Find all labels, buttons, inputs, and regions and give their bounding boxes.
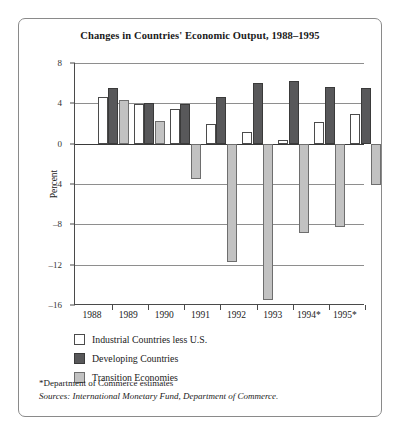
bar (242, 132, 252, 144)
legend-item: Industrial Countries less U.S. (74, 330, 334, 349)
bar (361, 88, 371, 143)
y-tick-mark (70, 143, 75, 144)
bar-group (202, 63, 238, 305)
plot-area (74, 63, 364, 305)
page-title: Changes in Countries' Economic Output, 1… (19, 30, 381, 41)
legend-swatch (74, 353, 85, 364)
bar (278, 140, 288, 144)
bar (289, 81, 299, 144)
y-tick-mark (70, 63, 75, 64)
bar (144, 103, 154, 143)
y-tick-label: –4 (32, 179, 62, 189)
bar (155, 121, 165, 143)
plot-wrapper: Percent 840–4–8–12–16 198819891990199119… (56, 63, 364, 305)
bar (371, 144, 381, 185)
bar (253, 83, 263, 144)
bar-group (130, 63, 166, 305)
bar-group (311, 63, 347, 305)
bar (227, 144, 237, 262)
legend-label: Developing Countries (92, 353, 178, 364)
bar (191, 144, 201, 179)
y-tick-mark (70, 224, 75, 225)
y-tick-mark (70, 305, 75, 306)
bar-group (347, 63, 383, 305)
y-tick-mark (70, 184, 75, 185)
y-tick-label: –8 (32, 219, 62, 229)
y-tick-label: –16 (32, 300, 62, 310)
bar (108, 88, 118, 143)
y-tick-mark (70, 103, 75, 104)
bar (180, 104, 190, 143)
x-tick-label: 1995* (321, 310, 369, 320)
bar (299, 144, 309, 234)
legend-swatch (74, 334, 85, 345)
bar-group (239, 63, 275, 305)
bar (314, 122, 324, 143)
bar (206, 124, 216, 144)
legend-label: Industrial Countries less U.S. (92, 334, 207, 345)
bar (134, 104, 144, 143)
bar (335, 144, 345, 228)
bar (325, 87, 335, 143)
legend-item: Developing Countries (74, 349, 334, 368)
y-tick-mark (70, 264, 75, 265)
y-tick-label: 8 (32, 58, 62, 68)
bar (98, 97, 108, 143)
chart-notes: *Department of Commerce estimatesSources… (39, 377, 369, 402)
bars-layer (94, 63, 383, 305)
bar-group (94, 63, 130, 305)
bar-group (166, 63, 202, 305)
bar-group (275, 63, 311, 305)
bar (119, 100, 129, 143)
bar (350, 114, 360, 143)
bar (263, 144, 273, 300)
footnote-sources: Sources: International Monetary Fund, De… (39, 390, 369, 403)
bar (216, 97, 226, 143)
footnote-estimates: *Department of Commerce estimates (39, 377, 369, 390)
y-tick-label: 0 (32, 139, 62, 149)
y-tick-label: –12 (32, 260, 62, 270)
y-tick-label: 4 (32, 98, 62, 108)
chart-frame: Changes in Countries' Economic Output, 1… (18, 18, 382, 417)
bar (170, 109, 180, 143)
